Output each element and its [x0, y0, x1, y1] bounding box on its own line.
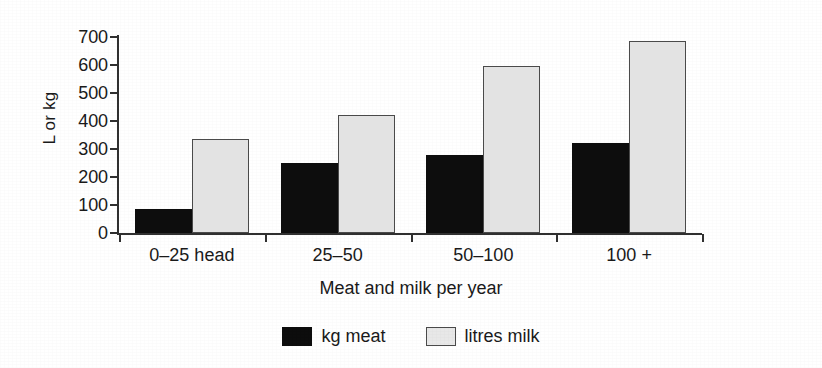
legend-item-litres-milk: litres milk	[426, 326, 540, 347]
bar-litres-milk	[483, 66, 540, 233]
x-axis-tick	[702, 234, 704, 242]
y-axis-tick	[110, 232, 119, 234]
plot-area: 0–25 head25–5050–100100 +	[0, 0, 822, 368]
outlined-grey-square-icon	[426, 327, 456, 346]
bar-litres-milk	[192, 139, 249, 233]
x-axis-tick	[119, 234, 121, 242]
legend-label-kg-meat: kg meat	[321, 326, 385, 347]
legend-label-litres-milk: litres milk	[465, 326, 540, 347]
x-axis-tick	[265, 234, 267, 242]
bar-kg-meat	[572, 143, 629, 233]
y-axis-tick	[110, 36, 119, 38]
bar-litres-milk	[629, 41, 686, 233]
x-axis-title: Meat and milk per year	[0, 278, 822, 299]
chart-legend: kg meat litres milk	[0, 326, 822, 347]
y-axis-tick	[110, 92, 119, 94]
legend-item-kg-meat: kg meat	[282, 326, 385, 347]
y-axis-tick	[110, 148, 119, 150]
y-axis-tick	[110, 64, 119, 66]
filled-black-square-icon	[282, 327, 312, 346]
x-axis-tick-label: 100 +	[539, 245, 719, 265]
bar-kg-meat	[135, 209, 192, 233]
bar-litres-milk	[338, 115, 395, 233]
bar-kg-meat	[426, 155, 483, 233]
x-axis-tick	[411, 234, 413, 242]
y-axis-tick	[110, 204, 119, 206]
bar-kg-meat	[281, 163, 338, 233]
y-axis-tick	[110, 176, 119, 178]
y-axis-tick	[110, 120, 119, 122]
bar-chart: L or kg 7006005004003002001000 0–25 head…	[0, 0, 822, 368]
x-axis-tick	[556, 234, 558, 242]
